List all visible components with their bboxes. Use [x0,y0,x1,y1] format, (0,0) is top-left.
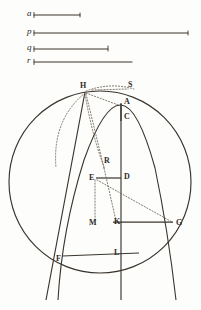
chord-FL [62,253,139,256]
point-label-E: E [89,174,94,182]
construction-group [9,91,191,300]
point-label-K: K [114,218,120,226]
measure-lines-group [34,13,188,65]
figure-canvas: a p q r H S A C R E D M K G F L [0,0,201,310]
segment-label-a: a [27,9,32,18]
point-label-H: H [80,82,86,90]
oblique-line-left [46,92,85,300]
parabola-curve [58,105,176,300]
point-label-D: D [124,173,130,181]
point-label-R: R [104,157,110,165]
dotted-line-RK [104,168,116,221]
point-label-L: L [114,249,119,257]
point-label-M: M [89,219,97,227]
point-label-A: A [124,98,130,106]
dotted-line-HA [86,93,121,106]
point-label-G: G [176,219,182,227]
segment-label-q: q [27,43,32,52]
dotted-line-HR [86,94,104,168]
segment-label-p: p [27,27,32,36]
point-label-C: C [124,113,130,121]
point-label-S: S [128,81,132,89]
segment-label-r: r [27,56,31,65]
dotted-line-HS [92,89,128,90]
dotted-arc-from-H [56,93,85,168]
point-label-F: F [56,255,61,263]
